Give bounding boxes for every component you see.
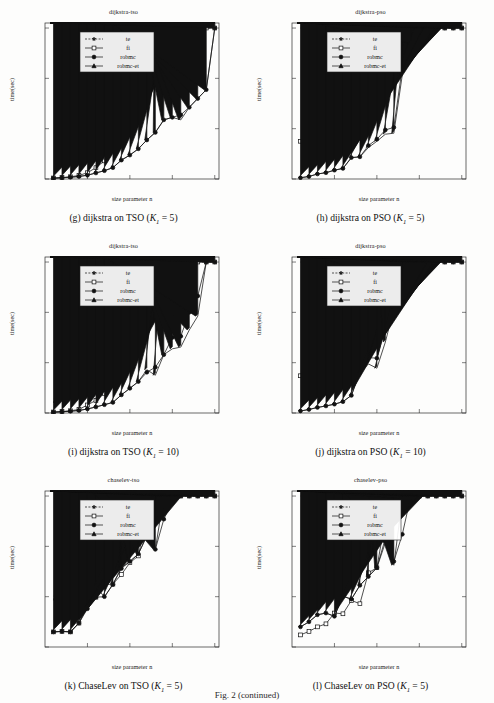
svg-text:te: te: [373, 270, 378, 276]
svg-text:te: te: [126, 36, 131, 42]
chart-k: 020040060010203040tefirobmcrobmc-et: [44, 490, 220, 648]
y-axis-label: time(sec): [8, 546, 15, 569]
plot-title: dijkstra-pso: [247, 8, 494, 15]
svg-text:robmc-et: robmc-et: [117, 531, 139, 537]
svg-text:robmc-et: robmc-et: [364, 63, 386, 69]
panel-l: chaselev-pso time(sec) 02004006001020304…: [247, 468, 494, 702]
x-axis-label: size parameter n: [291, 195, 467, 202]
svg-text:robmc: robmc: [120, 522, 136, 528]
chart-i: 020040060010203040tefirobmcrobmc-et: [44, 256, 220, 414]
panel-g: dijkstra-tso time(sec) 02004006001020304…: [0, 0, 247, 234]
panel-k: chaselev-tso time(sec) 02004006001020304…: [0, 468, 247, 702]
panel-caption: (i) dijkstra on TSO (K1 = 10): [0, 446, 247, 459]
svg-text:robmc: robmc: [120, 54, 136, 60]
chart-g: 020040060010203040tefirobmcrobmc-et: [44, 22, 220, 180]
svg-text:robmc-et: robmc-et: [364, 531, 386, 537]
x-axis-label: size parameter n: [44, 663, 220, 670]
svg-text:te: te: [373, 36, 378, 42]
svg-text:fi: fi: [126, 513, 130, 519]
y-axis-label: time(sec): [8, 312, 15, 335]
plot-title: chaselev-tso: [0, 476, 247, 483]
plot-title: dijkstra-pso: [247, 242, 494, 249]
y-axis-label: time(sec): [255, 78, 262, 101]
chart-j: 020040060010203040tefirobmcrobmc-et: [291, 256, 467, 414]
svg-text:fi: fi: [126, 279, 130, 285]
svg-text:fi: fi: [373, 45, 377, 51]
panel-row-1: dijkstra-tso time(sec) 02004006001020304…: [0, 0, 494, 234]
svg-text:fi: fi: [126, 45, 130, 51]
chart-l: 020040060010203040tefirobmcrobmc-et: [291, 490, 467, 648]
plot-title: dijkstra-tso: [0, 242, 247, 249]
svg-text:robmc: robmc: [367, 288, 383, 294]
svg-text:te: te: [373, 504, 378, 510]
plot-title: chaselev-pso: [247, 476, 494, 483]
y-axis-label: time(sec): [8, 78, 15, 101]
svg-text:robmc-et: robmc-et: [117, 63, 139, 69]
y-axis-label: time(sec): [255, 312, 262, 335]
svg-text:fi: fi: [373, 513, 377, 519]
x-axis-label: size parameter n: [291, 429, 467, 436]
figure-page: dijkstra-tso time(sec) 02004006001020304…: [0, 0, 494, 703]
panel-h: dijkstra-pso time(sec) 02004006001020304…: [247, 0, 494, 234]
panel-j: dijkstra-pso time(sec) 02004006001020304…: [247, 234, 494, 468]
x-axis-label: size parameter n: [291, 663, 467, 670]
figure-number-label: Fig. 2 (continued): [0, 690, 494, 700]
svg-text:robmc: robmc: [367, 54, 383, 60]
x-axis-label: size parameter n: [44, 195, 220, 202]
plot-title: dijkstra-tso: [0, 8, 247, 15]
svg-text:robmc: robmc: [367, 522, 383, 528]
chart-h: 020040060010203040tefirobmcrobmc-et: [291, 22, 467, 180]
panel-i: dijkstra-tso time(sec) 02004006001020304…: [0, 234, 247, 468]
panel-row-3: chaselev-tso time(sec) 02004006001020304…: [0, 468, 494, 702]
svg-text:te: te: [126, 504, 131, 510]
panel-caption: (g) dijkstra on TSO (K1 = 5): [0, 212, 247, 225]
panel-row-2: dijkstra-tso time(sec) 02004006001020304…: [0, 234, 494, 468]
y-axis-label: time(sec): [255, 546, 262, 569]
x-axis-label: size parameter n: [44, 429, 220, 436]
svg-text:robmc-et: robmc-et: [117, 297, 139, 303]
svg-text:robmc: robmc: [120, 288, 136, 294]
svg-text:fi: fi: [373, 279, 377, 285]
svg-text:te: te: [126, 270, 131, 276]
panel-caption: (j) dijkstra on PSO (K1 = 10): [247, 446, 494, 459]
svg-text:robmc-et: robmc-et: [364, 297, 386, 303]
panel-caption: (h) dijkstra on PSO (K1 = 5): [247, 212, 494, 225]
